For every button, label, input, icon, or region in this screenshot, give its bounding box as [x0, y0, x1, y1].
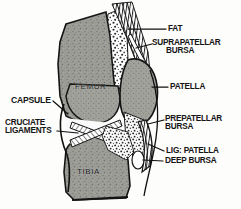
- label-femur: FEMUR: [75, 83, 106, 91]
- label-suprapatellar-bursa: SUPRAPATELLARBURSA: [152, 39, 221, 56]
- label-suprapatellar-bursa-line2: BURSA: [166, 47, 221, 55]
- label-capsule: CAPSULE: [11, 96, 51, 105]
- label-fat: FAT: [168, 25, 182, 33]
- knee-joint-figure: FAT SUPRAPATELLARBURSA PATELLA PREPATELL…: [0, 0, 241, 209]
- label-prepatellar-bursa-line2: BURSA: [165, 123, 222, 131]
- label-prepatellar-bursa: PREPATELLARBURSA: [165, 115, 222, 132]
- leader-prepatellar-bursa: [148, 120, 164, 124]
- label-lig-patella: LIG: PATELLA: [166, 147, 219, 155]
- label-patella: PATELLA: [170, 83, 205, 91]
- label-cruciate-ligaments-line2: LIGAMENTS: [5, 127, 51, 135]
- label-tibia: TIBIA: [77, 168, 100, 176]
- deep-infrapatellar-bursa-shape: [132, 151, 144, 169]
- label-deep-bursa: DEEP BURSA: [165, 157, 217, 165]
- label-cruciate-ligaments: CRUCIATELIGAMENTS: [5, 119, 51, 136]
